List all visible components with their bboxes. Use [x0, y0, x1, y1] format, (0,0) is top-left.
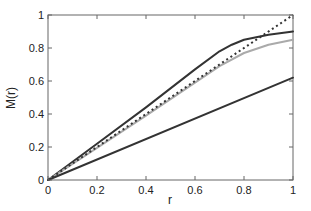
y-tick-label: 0 — [38, 174, 44, 186]
x-tick-label: 0.4 — [138, 184, 153, 196]
chart: 00.20.40.60.8100.20.40.60.81 r M(r) — [0, 0, 311, 211]
y-tick-label: 0.4 — [29, 108, 44, 120]
x-tick-label: 1 — [290, 184, 296, 196]
y-tick-label: 0.6 — [29, 75, 44, 87]
x-tick-label: 0.8 — [236, 184, 251, 196]
x-axis-label: r — [168, 193, 172, 207]
x-tick-label: 0 — [45, 184, 51, 196]
y-axis-label: M(r) — [4, 87, 18, 109]
y-tick-label: 0.2 — [29, 141, 44, 153]
y-tick-label: 1 — [38, 9, 44, 21]
x-tick-label: 0.2 — [89, 184, 104, 196]
y-tick-label: 0.8 — [29, 42, 44, 54]
x-tick-label: 0.6 — [187, 184, 202, 196]
